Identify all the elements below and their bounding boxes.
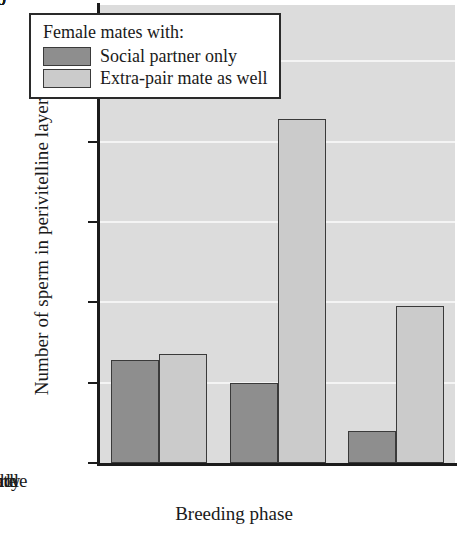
legend-entry-social-partner: Social partner only <box>43 46 267 68</box>
y-axis-tick <box>88 221 100 223</box>
y-axis-tick <box>88 301 100 303</box>
bar <box>230 383 278 463</box>
light-gray-swatch <box>43 69 91 88</box>
legend-entry-extra-pair: Extra-pair mate as well <box>43 68 267 90</box>
bar <box>278 119 326 463</box>
x-axis-title: Breeding phase <box>0 503 468 525</box>
x-axis-line <box>97 463 457 466</box>
legend-title: Female mates with: <box>43 22 267 44</box>
y-axis-tick <box>88 382 100 384</box>
bar <box>396 306 444 463</box>
x-axis-category-label: Late <box>0 470 17 492</box>
bar <box>348 431 396 463</box>
bar-chart: Number of sperm in perivitelline layer B… <box>0 0 468 550</box>
legend: Female mates with: Social partner only E… <box>29 13 281 99</box>
legend-entry-label: Extra-pair mate as well <box>100 68 267 90</box>
legend-entry-label: Social partner only <box>100 46 237 68</box>
dark-gray-swatch <box>43 47 91 66</box>
bar <box>111 360 159 463</box>
y-axis-tick <box>88 141 100 143</box>
bar <box>159 354 207 463</box>
y-axis-tick-label: 250 <box>0 0 6 10</box>
y-axis-tick <box>88 462 100 464</box>
